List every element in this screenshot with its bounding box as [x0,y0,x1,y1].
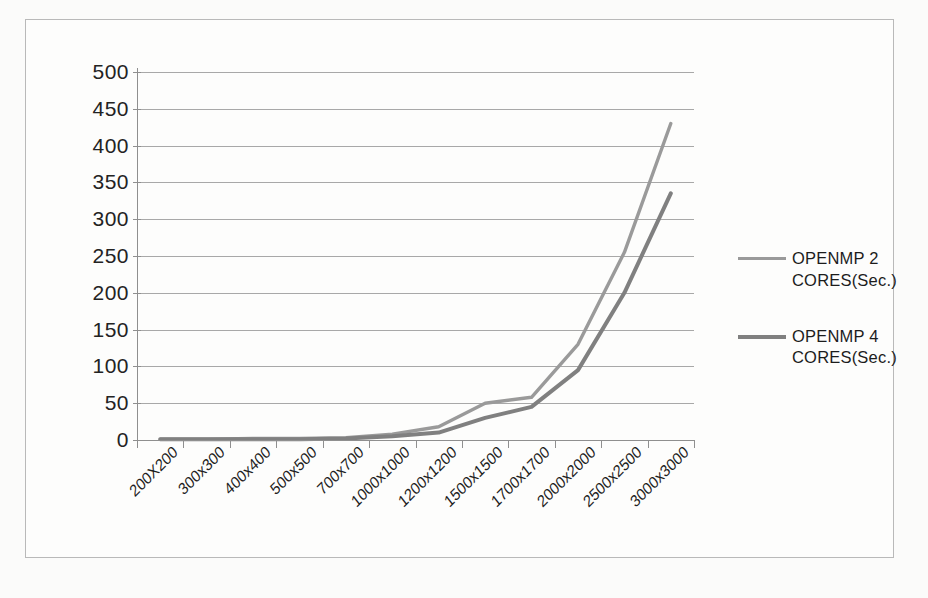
page-background: 050100150200250300350400450500 200X20030… [0,0,928,598]
y-axis-tick-label-50: 50 [105,392,129,413]
legend-label-series-1-line2: CORES(Sec.) [792,270,888,292]
y-axis-ticks [137,68,138,446]
x-axis-tick-label-2: 400x400 [221,444,274,497]
x-axis-labels: 200X200300x300400x400500x500700x7001000x… [137,444,694,554]
chart-frame: 050100150200250300350400450500 200X20030… [25,19,894,558]
x-axis-ticks [137,440,694,441]
y-axis-tick-label-200: 200 [92,282,129,303]
y-axis-tick-label-250: 250 [92,245,129,266]
y-axis-tick-label-100: 100 [92,355,129,376]
chart-legend: OPENMP 2 CORES(Sec.) OPENMP 4 CORES(Sec.… [738,248,888,403]
y-axis-tick-label-0: 0 [117,429,129,450]
x-axis-tick-12 [694,440,695,448]
legend-label-series-1: OPENMP 2 CORES(Sec.) [792,248,888,292]
y-axis-tick-400 [133,146,141,147]
legend-swatch-series-2 [738,335,786,339]
y-axis-tick-label-400: 400 [92,135,129,156]
y-axis-line [137,68,138,446]
y-axis-tick-250 [133,256,141,257]
legend-entry-openmp-2-cores: OPENMP 2 CORES(Sec.) [738,248,888,292]
y-axis-tick-label-500: 500 [92,61,129,82]
legend-label-series-2: OPENMP 4 CORES(Sec.) [792,326,888,370]
y-axis-tick-100 [133,366,141,367]
legend-label-series-2-line1: OPENMP 4 [792,326,888,348]
legend-swatch-series-1 [738,257,786,260]
y-axis-labels: 050100150200250300350400450500 [46,72,129,440]
legend-label-series-2-line2: CORES(Sec.) [792,347,888,369]
x-axis-tick-label-0: 200X200 [126,444,181,499]
y-axis-tick-50 [133,403,141,404]
y-axis-tick-150 [133,330,141,331]
plot-area [137,72,694,440]
legend-entry-openmp-4-cores: OPENMP 4 CORES(Sec.) [738,326,888,370]
y-axis-tick-300 [133,219,141,220]
y-axis-tick-450 [133,109,141,110]
y-axis-tick-200 [133,293,141,294]
legend-label-series-1-line1: OPENMP 2 [792,248,888,270]
series-line-1 [160,124,671,440]
x-axis-tick-label-1: 300x300 [175,444,228,497]
y-axis-tick-label-300: 300 [92,208,129,229]
series-layer [137,72,694,440]
x-axis-line [137,440,694,441]
y-axis-tick-350 [133,182,141,183]
series-line-2 [160,193,671,439]
y-axis-tick-label-450: 450 [92,98,129,119]
x-axis-tick-label-3: 500x500 [267,444,320,497]
y-axis-tick-label-150: 150 [92,319,129,340]
y-axis-tick-500 [133,72,141,73]
y-axis-tick-label-350: 350 [92,171,129,192]
